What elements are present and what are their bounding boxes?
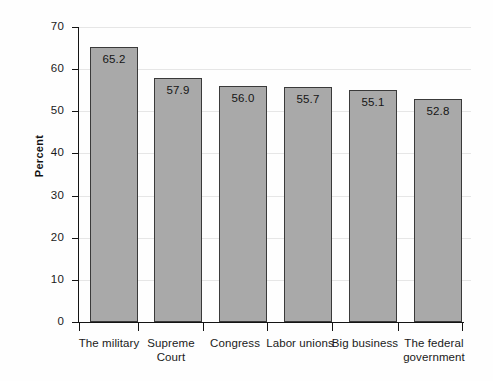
- x-axis-label-congress: Congress: [203, 336, 267, 350]
- plot-area: 65.2 57.9 56.0 55.7 55.1 52.8: [78, 27, 463, 322]
- bar-value-label: 56.0: [220, 92, 266, 104]
- y-axis-title: Percent: [33, 111, 45, 201]
- x-axis-label-supreme-court: Supreme Court: [143, 336, 199, 364]
- x-axis-label-big-business: Big business: [331, 336, 399, 350]
- x-axis-line: [78, 322, 464, 323]
- bar-value-label: 57.9: [155, 84, 201, 96]
- x-tick-4: [332, 323, 333, 331]
- bar-big-business: 55.1: [349, 90, 397, 322]
- bar-value-label: 55.1: [350, 96, 396, 108]
- y-tick-0: [72, 322, 78, 323]
- y-axis-label-10: 10: [18, 273, 64, 285]
- y-axis-label-60: 60: [18, 62, 64, 74]
- y-axis-label-0: 0: [18, 315, 64, 327]
- bar-the-federal-government: 52.8: [414, 99, 462, 322]
- bar-value-label: 52.8: [415, 105, 461, 117]
- x-tick-0: [79, 323, 80, 331]
- x-tick-2: [203, 323, 204, 331]
- y-axis-label-20: 20: [18, 231, 64, 243]
- x-axis-label-labor-unions: Labor unions: [265, 336, 335, 350]
- x-axis-label-the-military: The military: [74, 336, 144, 350]
- x-tick-3: [267, 323, 268, 331]
- x-tick-5: [398, 323, 399, 331]
- bar-value-label: 55.7: [285, 93, 331, 105]
- bar-supreme-court: 57.9: [154, 78, 202, 322]
- x-tick-1: [138, 323, 139, 331]
- bar-labor-unions: 55.7: [284, 87, 332, 322]
- bar-value-label: 65.2: [91, 53, 137, 65]
- bar-congress: 56.0: [219, 86, 267, 322]
- bar-chart: 70 60 50 40 30 20 10 0 Percent 65.2 57.9…: [0, 0, 493, 381]
- y-axis-label-70: 70: [18, 20, 64, 32]
- x-axis-label-the-federal-government: The federal government: [398, 336, 470, 364]
- x-tick-6: [462, 323, 463, 331]
- bar-the-military: 65.2: [90, 47, 138, 322]
